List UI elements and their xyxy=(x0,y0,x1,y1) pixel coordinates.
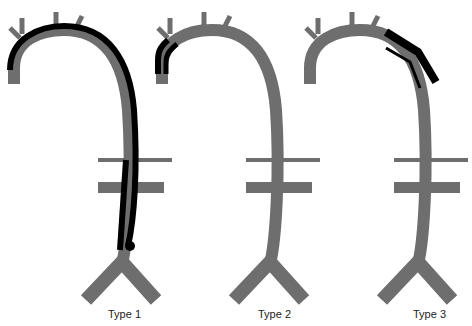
aorta-type-2 xyxy=(158,12,320,300)
panel-label-type-2: Type 2 xyxy=(258,308,291,320)
aorta-type-1 xyxy=(10,12,172,300)
panel-label-type-1: Type 1 xyxy=(108,308,141,320)
panel-label-type-3: Type 3 xyxy=(413,308,446,320)
aorta-diagram xyxy=(0,0,472,326)
aorta-type-3 xyxy=(306,12,468,300)
